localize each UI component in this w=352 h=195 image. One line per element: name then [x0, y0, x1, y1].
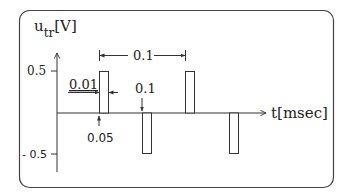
y-tick-label-pos: 0.5	[27, 64, 46, 78]
pulse-negative-2	[230, 113, 239, 154]
pulse-negative-1	[143, 113, 152, 154]
period-label: 0.1	[133, 48, 154, 63]
y-tick-label-neg: - 0.5	[22, 148, 47, 161]
pulse-positive-1	[100, 72, 109, 114]
pulse-diagram: utr[V] t[msec] 0.5 - 0.5 0.1 0.01 0.1 0.…	[0, 0, 352, 195]
y-axis-label: utr[V]	[34, 17, 77, 40]
pulse-positive-2	[186, 72, 195, 114]
width-label: 0.01	[69, 77, 98, 92]
neg-start-label: 0.1	[135, 81, 156, 96]
frame-border	[20, 11, 334, 188]
start-label: 0.05	[87, 131, 114, 145]
x-axis-label: t[msec]	[271, 104, 328, 122]
